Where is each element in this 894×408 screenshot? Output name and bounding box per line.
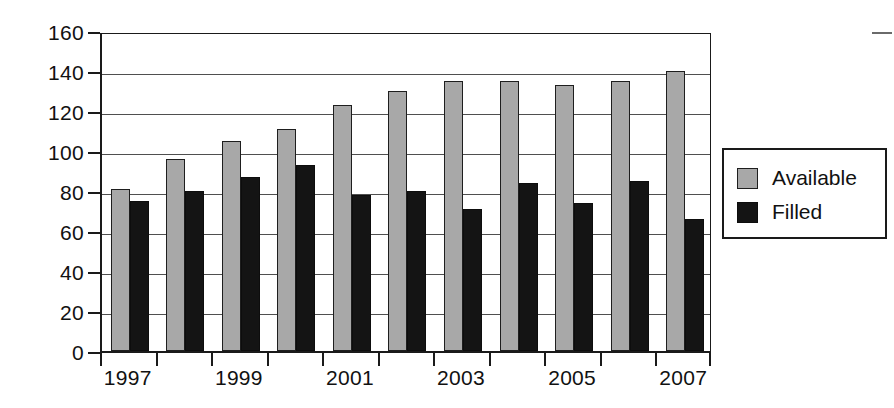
bar-available-2000 [277, 129, 296, 351]
x-axis-tick-mark [267, 353, 269, 366]
y-axis-tick-mark [88, 112, 100, 114]
y-axis-tick-label: 40 [60, 261, 84, 285]
bar-filled-2004 [519, 183, 538, 351]
bar-chart-figure: 020406080100120140160 199719992001200320… [0, 0, 894, 408]
legend-entry-available: Available [737, 161, 885, 195]
x-axis-tick-mark [600, 353, 602, 366]
y-axis-tick-marks [88, 33, 100, 353]
bar-available-1997 [111, 189, 130, 351]
y-axis-tick-mark [88, 72, 100, 74]
x-axis-tick-label: 1999 [215, 366, 263, 390]
bar-filled-2001 [352, 195, 371, 351]
bar-filled-1999 [241, 177, 260, 351]
y-axis-tick-label: 20 [60, 301, 84, 325]
bar-available-2004 [500, 81, 519, 351]
x-axis-tick-mark [156, 353, 158, 366]
bar-available-2003 [444, 81, 463, 351]
x-axis-tick-mark [709, 353, 711, 366]
y-axis-tick-label: 80 [60, 181, 84, 205]
bar-filled-2006 [630, 181, 649, 351]
y-axis-tick-mark [88, 32, 100, 34]
bar-filled-1997 [130, 201, 149, 351]
y-axis-tick-mark [88, 192, 100, 194]
bars-layer [102, 34, 710, 351]
y-axis-tick-label: 0 [72, 341, 84, 365]
legend-label-available: Available [772, 166, 857, 190]
x-axis-tick-mark [378, 353, 380, 366]
y-axis-tick-mark [88, 272, 100, 274]
legend-label-filled: Filled [772, 200, 822, 224]
x-axis-tick-mark [211, 353, 213, 366]
chart-legend: Available Filled [722, 148, 887, 239]
x-axis-tick-mark [322, 353, 324, 366]
x-axis-tick-label: 2007 [659, 366, 707, 390]
bar-group-2000 [269, 34, 325, 351]
bar-available-2006 [611, 81, 630, 351]
bar-filled-1998 [185, 191, 204, 351]
plot-area [100, 33, 711, 353]
y-axis-tick-label: 60 [60, 221, 84, 245]
x-axis-tick-mark [544, 353, 546, 366]
bar-group-2004 [491, 34, 547, 351]
bar-filled-2005 [574, 203, 593, 351]
y-axis-tick-label: 140 [48, 61, 84, 85]
black-swatch-icon [737, 202, 758, 223]
bar-group-2001 [324, 34, 380, 351]
bar-filled-2003 [463, 209, 482, 351]
x-axis-tick-labels: 199719992001200320052007 [100, 366, 711, 400]
y-axis-tick-labels: 020406080100120140160 [0, 33, 84, 353]
bar-group-2003 [435, 34, 491, 351]
bar-available-2007 [666, 71, 685, 351]
x-axis-tick-label: 2003 [437, 366, 485, 390]
bar-available-2005 [555, 85, 574, 351]
y-axis-tick-mark [88, 152, 100, 154]
bar-group-1999 [213, 34, 269, 351]
bar-available-2002 [388, 91, 407, 351]
page-scan-artifact [872, 32, 892, 34]
bar-filled-2002 [407, 191, 426, 351]
bar-group-2007 [657, 34, 713, 351]
y-axis-tick-label: 120 [48, 101, 84, 125]
bar-filled-2000 [296, 165, 315, 351]
y-axis-tick-label: 100 [48, 141, 84, 165]
x-axis-tick-mark [489, 353, 491, 366]
x-axis-tick-mark [100, 353, 102, 366]
gray-swatch-icon [737, 168, 758, 189]
legend-entry-filled: Filled [737, 195, 885, 229]
bar-group-1998 [158, 34, 214, 351]
x-axis-tick-mark [655, 353, 657, 366]
bar-group-2005 [546, 34, 602, 351]
x-axis-tick-label: 2001 [326, 366, 374, 390]
y-axis-tick-mark [88, 352, 100, 354]
bar-available-2001 [333, 105, 352, 351]
y-axis-tick-label: 160 [48, 21, 84, 45]
y-axis-tick-mark [88, 312, 100, 314]
y-axis-tick-mark [88, 232, 100, 234]
x-axis-tick-label: 2005 [548, 366, 596, 390]
bar-group-2006 [602, 34, 658, 351]
bar-filled-2007 [685, 219, 704, 351]
bar-available-1998 [166, 159, 185, 351]
x-axis-tick-label: 1997 [104, 366, 152, 390]
x-axis-tick-mark [433, 353, 435, 366]
bar-group-1997 [102, 34, 158, 351]
bar-available-1999 [222, 141, 241, 351]
bar-group-2002 [380, 34, 436, 351]
x-axis-tick-marks [100, 353, 711, 366]
